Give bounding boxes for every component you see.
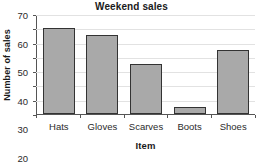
bar-slot [37, 15, 81, 114]
bar-slot [211, 15, 255, 114]
y-axis-tick: 60 [33, 29, 36, 30]
y-axis-tick-label: 50 [17, 67, 28, 78]
x-axis-tick-labels: HatsGlovesScarvesBootsShoes [37, 121, 255, 132]
x-axis-tick [255, 115, 256, 118]
bar-slot [81, 15, 125, 114]
y-axis-tick: 30 [33, 72, 36, 73]
y-axis-tick-label: 20 [17, 152, 28, 162]
x-axis-tick-label: Gloves [81, 121, 125, 132]
x-axis-tick [124, 115, 125, 118]
bar-slot [124, 15, 168, 114]
chart-title: Weekend sales [0, 1, 263, 13]
bar-scarves [130, 64, 162, 114]
y-axis-tick: 50 [33, 44, 36, 45]
y-axis-tick-label: 40 [17, 95, 28, 106]
x-axis-tick [211, 115, 212, 118]
y-axis-tick-label: 30 [17, 124, 28, 135]
x-axis-tick [167, 115, 168, 118]
x-axis-title: Item [36, 140, 255, 151]
y-axis-tick-label: 60 [17, 38, 28, 49]
x-axis-tick-label: Scarves [124, 121, 168, 132]
y-axis-tick: 40 [33, 58, 36, 59]
y-axis-tick: 70 [33, 15, 36, 16]
bar-gloves [86, 35, 118, 114]
y-axis-tick: 20 [33, 86, 36, 87]
x-axis-line [36, 114, 255, 115]
bar-slot [168, 15, 212, 114]
y-axis-tick: 10 [33, 101, 36, 102]
plot-area: 010203040506070 [36, 15, 255, 115]
bar-shoes [217, 50, 249, 114]
bar-boots [174, 107, 206, 114]
y-axis-title: Number of sales [2, 29, 12, 101]
x-axis-tick-label: Shoes [211, 121, 255, 132]
y-axis-title-area: Number of sales [0, 13, 13, 117]
y-axis-tick-label: 70 [17, 10, 28, 21]
x-axis-tick-label: Hats [37, 121, 81, 132]
bar-hats [43, 28, 75, 114]
x-axis-tick-label: Boots [168, 121, 212, 132]
bar-series [37, 15, 255, 114]
bar-chart: Weekend sales Number of sales 0102030405… [0, 0, 263, 162]
x-axis-tick [80, 115, 81, 118]
x-axis-tick [36, 115, 37, 118]
